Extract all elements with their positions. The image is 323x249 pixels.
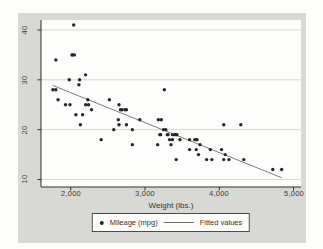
y-tick-label: 10 [18,171,32,187]
x-tick-label: 3,000 [135,189,155,198]
x-axis-title: Weight (lbs.) [149,201,194,210]
x-tick-label: 4,000 [209,189,229,198]
y-tick-label: 30 [18,72,32,88]
legend-line-label: Fitted values [200,218,243,227]
scatter-marker-icon [100,221,104,225]
legend: Mileage (mpg) Fitted values [92,213,250,232]
x-tick-label: 5,000 [284,189,304,198]
x-tick-label: 2,000 [61,189,81,198]
y-tick-label: 20 [18,122,32,138]
legend-scatter-label: Mileage (mpg) [110,218,158,227]
graph-region: 40 30 20 10 2,000 3,000 4,000 5,000 Weig… [18,13,306,243]
y-tick-label: 40 [18,22,32,38]
figure-page: 40 30 20 10 2,000 3,000 4,000 5,000 Weig… [0,0,323,249]
fitted-line-icon [164,222,194,223]
